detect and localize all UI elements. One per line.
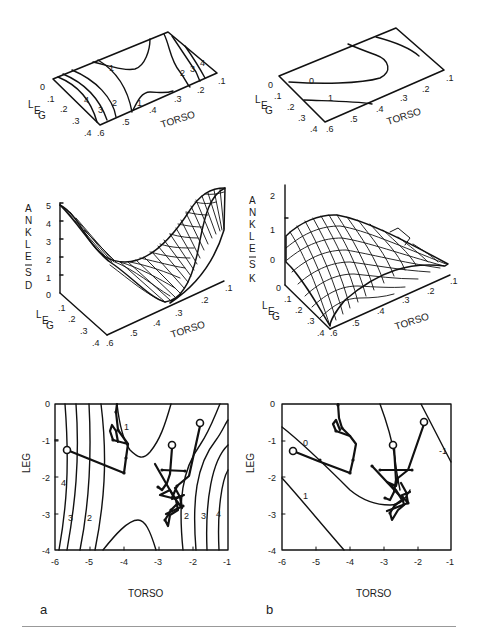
panel-a-bottom-plot	[55, 404, 228, 550]
svg-text:1: 1	[109, 63, 114, 73]
svg-text:E: E	[25, 251, 32, 262]
svg-text:0: 0	[270, 399, 275, 409]
svg-text:G: G	[46, 320, 54, 331]
svg-text:-1: -1	[42, 436, 50, 446]
svg-text:-6: -6	[278, 557, 286, 567]
svg-text:L: L	[249, 231, 255, 242]
svg-text:-4: -4	[268, 546, 276, 556]
svg-text:.2: .2	[201, 295, 209, 305]
svg-text:.1: .1	[274, 91, 282, 101]
svg-text:2: 2	[180, 68, 185, 78]
svg-text:TORSO: TORSO	[128, 588, 164, 599]
svg-text:3: 3	[201, 511, 206, 521]
svg-text:-4: -4	[120, 557, 128, 567]
panel-b-middle-surface	[285, 185, 450, 329]
svg-text:-1: -1	[439, 446, 447, 456]
svg-text:-2: -2	[42, 473, 50, 483]
svg-text:K: K	[249, 219, 256, 230]
svg-text:L: L	[25, 239, 31, 250]
figure-canvas: 0 .1 .2 .3 .4 .6 .5 .4 .3 .2 .1 1 1 2 3 …	[0, 0, 479, 630]
svg-text:-6: -6	[51, 557, 59, 567]
svg-text:.1: .1	[446, 73, 454, 83]
svg-text:-4: -4	[346, 557, 354, 567]
svg-text:0: 0	[40, 82, 45, 92]
svg-text:.3: .3	[298, 113, 306, 123]
svg-text:N: N	[249, 207, 256, 218]
svg-text:A: A	[249, 195, 256, 206]
svg-text:G: G	[265, 105, 273, 116]
svg-text:.3: .3	[80, 326, 88, 336]
svg-text:.1: .1	[225, 283, 233, 293]
panel-b-bottom-plot	[282, 403, 451, 550]
svg-text:-3: -3	[268, 510, 276, 520]
svg-text:N: N	[25, 215, 32, 226]
svg-text:.2: .2	[427, 286, 435, 296]
svg-text:-3: -3	[42, 510, 50, 520]
svg-text:K: K	[25, 227, 32, 238]
svg-text:.5: .5	[130, 328, 138, 338]
svg-text:.4: .4	[149, 105, 157, 115]
svg-text:2: 2	[112, 98, 117, 108]
svg-text:E: E	[249, 243, 256, 254]
svg-text:.4: .4	[317, 328, 325, 338]
svg-text:.3: .3	[402, 295, 410, 305]
svg-text:.2: .2	[295, 305, 303, 315]
svg-text:.3: .3	[400, 93, 408, 103]
svg-text:-1: -1	[446, 557, 454, 567]
svg-text:-4: -4	[42, 546, 50, 556]
svg-text:.4: .4	[92, 338, 100, 348]
svg-text:0: 0	[303, 438, 308, 448]
svg-text:.2: .2	[60, 104, 68, 114]
svg-text:.1: .1	[58, 303, 66, 313]
svg-text:1: 1	[46, 273, 51, 283]
svg-text:.2: .2	[68, 314, 76, 324]
svg-text:S: S	[249, 259, 256, 270]
svg-text:4: 4	[216, 509, 221, 519]
svg-text:2: 2	[87, 513, 92, 523]
svg-text:4: 4	[61, 478, 66, 488]
svg-text:3: 3	[46, 237, 51, 247]
svg-text:1: 1	[124, 422, 129, 432]
svg-text:.6: .6	[106, 338, 114, 348]
svg-text:0: 0	[268, 80, 273, 90]
svg-text:2: 2	[270, 191, 275, 201]
svg-text:5: 5	[46, 201, 51, 211]
svg-text:0: 0	[309, 76, 314, 86]
svg-text:LEG: LEG	[21, 453, 32, 473]
svg-text:.2: .2	[197, 85, 205, 95]
svg-text:.3: .3	[175, 308, 183, 318]
svg-text:-3: -3	[380, 557, 388, 567]
svg-text:.4: .4	[84, 128, 92, 138]
svg-text:3: 3	[98, 105, 103, 115]
svg-text:4: 4	[84, 95, 89, 105]
svg-text:0: 0	[46, 290, 51, 300]
svg-text:.3: .3	[174, 94, 182, 104]
svg-text:0: 0	[45, 399, 50, 409]
svg-text:G: G	[272, 311, 280, 322]
svg-text:-5: -5	[312, 557, 320, 567]
svg-text:TORSO: TORSO	[159, 108, 196, 129]
svg-text:.5: .5	[122, 117, 130, 127]
svg-text:.6: .6	[330, 328, 338, 338]
svg-text:.4: .4	[310, 124, 318, 134]
svg-text:.2: .2	[422, 84, 430, 94]
svg-text:.6: .6	[326, 124, 334, 134]
svg-text:.5: .5	[350, 114, 358, 124]
svg-text:.2: .2	[287, 102, 295, 112]
svg-text:S: S	[25, 267, 32, 278]
svg-text:.4: .4	[377, 306, 385, 316]
svg-text:-2: -2	[189, 557, 197, 567]
svg-text:3: 3	[68, 513, 73, 523]
svg-text:TORSO: TORSO	[393, 310, 430, 331]
svg-text:.3: .3	[72, 116, 80, 126]
svg-text:TORSO: TORSO	[356, 588, 392, 599]
svg-text:.5: .5	[352, 318, 360, 328]
svg-text:.4: .4	[376, 104, 384, 114]
svg-text:-1: -1	[223, 557, 231, 567]
panel-label-a: a	[40, 602, 47, 617]
svg-text:LEG: LEG	[245, 453, 256, 473]
svg-text:2: 2	[184, 511, 189, 521]
svg-text:.4: .4	[153, 318, 161, 328]
svg-text:.1: .1	[218, 76, 226, 86]
svg-text:1: 1	[303, 491, 308, 501]
